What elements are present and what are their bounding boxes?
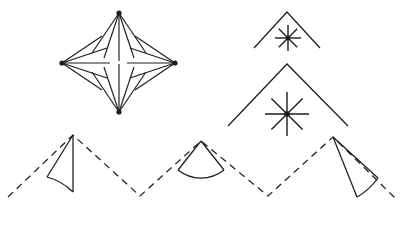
fan-apex-dot [172, 60, 177, 65]
star-center-dot [284, 111, 290, 117]
geometric-figure-canvas [0, 0, 404, 226]
canvas-background [0, 0, 404, 226]
fan-apex-dot [59, 60, 64, 65]
fan-apex-dot [116, 109, 121, 114]
star-center-dot [286, 36, 290, 40]
star-small [275, 25, 301, 51]
fan-apex-dot [116, 10, 121, 15]
star-large [265, 92, 309, 136]
